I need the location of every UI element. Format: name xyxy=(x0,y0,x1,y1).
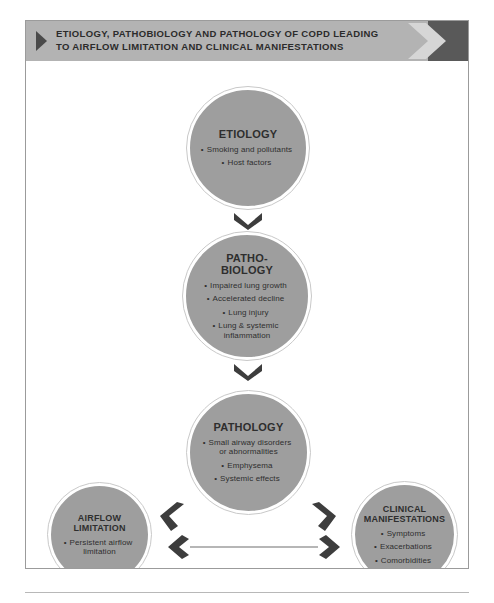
node-item: Systemic effects xyxy=(217,474,280,484)
chevron-down-icon xyxy=(232,211,264,231)
node-item: Symptoms xyxy=(384,529,426,539)
node-item: Small airway disorders or abnormalities xyxy=(206,438,292,457)
node-clinical-manifestations-title: CLINICAL MANIFESTATIONS xyxy=(364,504,445,525)
node-item: Host factors xyxy=(225,158,272,168)
figure-frame: ETIOLOGY, PATHOBIOLOGY AND PATHOLOGY OF … xyxy=(25,20,469,569)
node-pathobiology-title: PATHO- BIOLOGY xyxy=(221,252,273,277)
node-item: Emphysema xyxy=(224,461,272,471)
node-etiology: ETIOLOGY Smoking and pollutants Host fac… xyxy=(187,87,309,209)
figure-title: ETIOLOGY, PATHOBIOLOGY AND PATHOLOGY OF … xyxy=(56,28,416,53)
chevron-down-icon xyxy=(232,362,264,382)
node-pathology-title: PATHOLOGY xyxy=(214,421,284,434)
node-pathology: PATHOLOGY Small airway disorders or abno… xyxy=(187,391,310,514)
triangle-right-icon xyxy=(36,31,47,51)
footer-divider xyxy=(25,592,469,593)
figure-header-banner: ETIOLOGY, PATHOBIOLOGY AND PATHOLOGY OF … xyxy=(26,21,469,61)
node-item: Accelerated decline xyxy=(210,294,285,304)
node-airflow-limitation: AIRFLOW LIMITATION Persistent airflow li… xyxy=(48,483,151,569)
node-pathobiology: PATHO- BIOLOGY Impaired lung growth Acce… xyxy=(183,232,311,360)
node-pathology-items: Small airway disorders or abnormalities … xyxy=(198,438,299,484)
node-item: Persistent airflow limitation xyxy=(67,538,133,557)
node-airflow-limitation-title: AIRFLOW LIMITATION xyxy=(73,513,125,534)
node-etiology-items: Smoking and pollutants Host factors xyxy=(198,145,298,168)
node-item: Impaired lung growth xyxy=(207,281,287,291)
node-item: Exacerbations xyxy=(377,542,432,552)
node-pathobiology-items: Impaired lung growth Accelerated decline… xyxy=(194,281,300,341)
node-item: Comorbidities xyxy=(378,556,431,566)
node-clinical-manifestations: CLINICAL MANIFESTATIONS Symptoms Exacerb… xyxy=(352,482,457,569)
node-clinical-manifestations-items: Symptoms Exacerbations Comorbidities xyxy=(363,529,446,566)
chevron-down-right-icon xyxy=(307,502,337,534)
node-item: Lung & systemic inflammation xyxy=(215,321,278,340)
double-headed-arrow-icon xyxy=(166,533,342,561)
node-etiology-title: ETIOLOGY xyxy=(219,128,277,141)
node-item: Lung injury xyxy=(225,308,268,318)
node-item: Smoking and pollutants xyxy=(204,145,292,155)
chevron-right-icon xyxy=(408,21,448,61)
chevron-down-left-icon xyxy=(159,502,189,534)
node-airflow-limitation-items: Persistent airflow limitation xyxy=(59,538,140,557)
